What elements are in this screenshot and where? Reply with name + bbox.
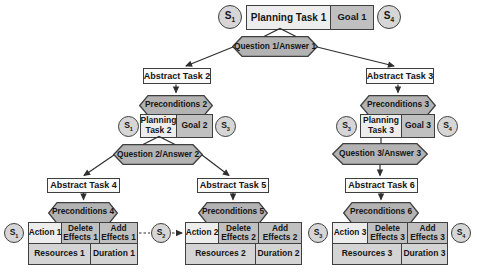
question-1-node: Question 1/Answer 1 (232, 36, 318, 57)
state-circle-s4-branch-right: S4 (437, 116, 458, 137)
state-subscript: 4 (449, 126, 452, 132)
arrow-question2-to-abstract4 (84, 155, 114, 176)
question-1-label: Question 1/Answer 1 (234, 42, 316, 51)
preconditions-2-node: Preconditions 2 (139, 95, 213, 116)
delete-effects-1-node: Delete Effects 1 (62, 222, 100, 244)
state-circle-s1-branch-left: S1 (118, 116, 139, 137)
add-effects-2-node: Add Effects 2 (259, 222, 302, 244)
planning-tree-diagram: S1 Planning Task 1 Goal 1 S4 Question 1/… (0, 0, 477, 275)
resources-2-node: Resources 2 (185, 244, 256, 265)
action-3-node: Action 3 (332, 222, 368, 244)
arrow-question2-to-abstract5 (202, 155, 229, 176)
goal-2-label: Goal 2 (182, 121, 208, 131)
preconditions-5-label: Preconditions 5 (202, 207, 264, 218)
preconditions-4-node: Preconditions 4 (48, 202, 118, 224)
preconditions-2-label: Preconditions 2 (145, 100, 207, 111)
preconditions-6-label: Preconditions 6 (350, 207, 412, 218)
state-circle-s3-branch-right: S3 (336, 116, 357, 137)
delete-effects-2-label: Delete Effects 2 (221, 224, 256, 243)
abstract-task-6-node: Abstract Task 6 (345, 178, 418, 193)
goal-3-label: Goal 3 (405, 121, 431, 131)
duration-2-node: Duration 2 (256, 244, 302, 265)
state-subscript: 2 (162, 232, 165, 238)
add-effects-3-node: Add Effects 3 (408, 222, 448, 244)
arrow-question1-to-abstract2 (186, 47, 233, 66)
state-circle-s4-bottom: S4 (451, 223, 471, 243)
planning-task-2-label: Planning Task 2 (141, 116, 177, 135)
action-1-label: Action 1 (29, 228, 62, 237)
preconditions-6-node: Preconditions 6 (343, 202, 419, 224)
state-subscript: 3 (227, 126, 230, 132)
state-label: S (225, 10, 232, 21)
duration-1-node: Duration 1 (91, 244, 138, 265)
action-2-label: Action 2 (186, 228, 219, 237)
delete-effects-3-label: Delete Effects 3 (370, 224, 405, 243)
state-circle-s3-branch-left: S3 (215, 116, 236, 137)
state-subscript: 3 (319, 232, 322, 238)
state-subscript: 3 (348, 126, 351, 132)
abstract-task-2-label: Abstract Task 2 (144, 71, 210, 81)
question-3-node: Question 3/Answer 3 (332, 143, 428, 165)
question-2-label: Question 2/Answer 2 (117, 150, 199, 159)
state-label: S (384, 10, 391, 21)
delete-effects-2-node: Delete Effects 2 (219, 222, 259, 244)
resources-3-node: Resources 3 (332, 244, 402, 265)
planning-task-2-node: Planning Task 2 (140, 114, 177, 138)
state-circle-s2-bottom: S2 (151, 223, 171, 243)
resources-2-label: Resources 2 (195, 249, 246, 259)
action-2-node: Action 2 (185, 222, 219, 244)
arrow-question1-to-abstract3 (317, 47, 394, 66)
abstract-task-5-node: Abstract Task 5 (197, 178, 269, 193)
delete-effects-1-label: Delete Effects 1 (63, 224, 98, 243)
preconditions-5-node: Preconditions 5 (198, 202, 268, 224)
goal-3-node: Goal 3 (402, 114, 435, 138)
duration-1-label: Duration 1 (93, 249, 135, 259)
abstract-task-6-label: Abstract Task 6 (348, 180, 414, 190)
state-circle-s1-bottom: S1 (4, 223, 24, 243)
add-effects-1-label: Add Effects 1 (101, 224, 136, 243)
resources-1-node: Resources 1 (28, 244, 91, 265)
abstract-task-4-node: Abstract Task 4 (47, 178, 120, 193)
preconditions-3-node: Preconditions 3 (360, 95, 436, 116)
abstract-task-5-label: Abstract Task 5 (200, 180, 266, 190)
duration-3-node: Duration 3 (402, 244, 448, 265)
action-3-label: Action 3 (334, 228, 367, 237)
preconditions-4-label: Preconditions 4 (52, 207, 114, 218)
planning-task-1-node: Planning Task 1 (246, 5, 331, 30)
planning-task-1-label: Planning Task 1 (251, 12, 326, 23)
duration-2-label: Duration 2 (257, 249, 299, 259)
resources-3-label: Resources 3 (342, 249, 393, 259)
goal-1-label: Goal 1 (337, 12, 366, 23)
planning-task-3-node: Planning Task 3 (360, 114, 402, 138)
state-circle-s3-bottom: S3 (308, 223, 328, 243)
state-subscript: 1 (15, 232, 18, 238)
state-subscript: 4 (391, 16, 395, 23)
state-subscript: 4 (462, 232, 465, 238)
question-3-label: Question 3/Answer 3 (339, 149, 421, 158)
action-1-node: Action 1 (28, 222, 62, 244)
state-circle-s1-root: S1 (218, 5, 242, 29)
abstract-task-2-node: Abstract Task 2 (143, 68, 211, 84)
abstract-task-3-node: Abstract Task 3 (366, 68, 434, 84)
duration-3-label: Duration 3 (403, 249, 445, 259)
preconditions-3-label: Preconditions 3 (367, 100, 429, 111)
planning-task-3-label: Planning Task 3 (363, 116, 399, 135)
add-effects-1-node: Add Effects 1 (100, 222, 138, 244)
goal-2-node: Goal 2 (177, 114, 213, 138)
abstract-task-4-label: Abstract Task 4 (50, 180, 116, 190)
delete-effects-3-node: Delete Effects 3 (368, 222, 408, 244)
abstract-task-3-label: Abstract Task 3 (367, 71, 433, 81)
resources-1-label: Resources 1 (34, 249, 85, 259)
question-2-node: Question 2/Answer 2 (113, 144, 203, 165)
state-subscript: 1 (232, 16, 236, 23)
add-effects-2-label: Add Effects 2 (263, 224, 298, 243)
state-subscript: 1 (130, 126, 133, 132)
goal-1-node: Goal 1 (331, 5, 374, 30)
state-circle-s4-root: S4 (377, 5, 401, 29)
add-effects-3-label: Add Effects 3 (410, 224, 445, 243)
